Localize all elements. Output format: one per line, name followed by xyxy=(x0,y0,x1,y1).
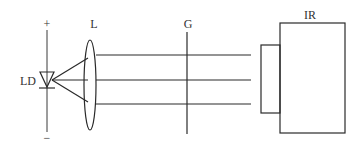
lens-icon xyxy=(84,40,96,130)
minus-label: − xyxy=(44,131,51,145)
receiver-box xyxy=(280,23,345,133)
plus-label: + xyxy=(44,17,51,31)
laser-diode-label: LD xyxy=(20,74,36,88)
receiver-aperture xyxy=(261,45,280,113)
grating-label: G xyxy=(184,17,193,31)
receiver-label: IR xyxy=(304,8,316,22)
parallel-beams xyxy=(96,55,251,104)
lens-label: L xyxy=(90,17,97,31)
optical-setup-diagram: + − LD L G IR xyxy=(0,0,359,148)
diverging-rays xyxy=(52,58,88,102)
